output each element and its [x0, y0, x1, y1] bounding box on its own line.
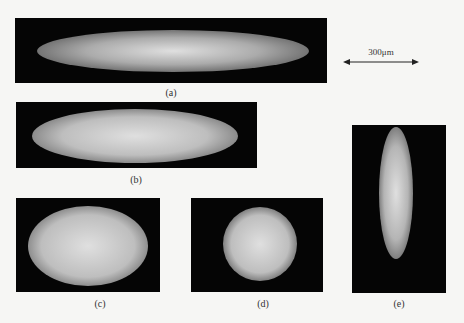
panel-a-image [15, 18, 327, 83]
panel-e-caption: (e) [393, 298, 404, 309]
scale-bar-arrow-icon [343, 57, 419, 67]
speckle-oval-c [28, 206, 148, 286]
speckle-ellipse-e [379, 127, 413, 259]
panel-a-caption: (a) [165, 87, 176, 98]
panel-e-image [352, 125, 446, 293]
panel-b-caption: (b) [130, 174, 142, 185]
speckle-ellipse-b [32, 109, 238, 163]
speckle-ellipse-a [37, 30, 309, 72]
panel-d-image [191, 198, 323, 292]
speckle-circle-d [223, 207, 297, 281]
scale-bar-label: 300μm [368, 47, 393, 57]
panel-c-caption: (c) [94, 298, 105, 309]
panel-d-caption: (d) [257, 298, 269, 309]
panel-b-image [16, 102, 257, 168]
panel-c-image [16, 198, 160, 292]
